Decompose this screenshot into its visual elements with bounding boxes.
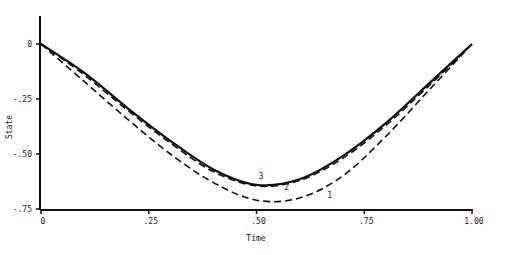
x-tick-label: 1.00	[464, 217, 483, 226]
x-tick-label: .25	[144, 217, 159, 226]
x-tick-label: .75	[359, 217, 374, 226]
y-axis-title: State	[5, 115, 14, 139]
y-ticks: 0-.25-.50-.75	[13, 40, 40, 214]
y-tick-label: -.50	[13, 150, 32, 159]
y-tick-label: -.25	[13, 95, 32, 104]
series-lines	[41, 44, 472, 202]
series-3-line	[41, 44, 472, 185]
y-tick-label: -.75	[13, 205, 32, 214]
x-ticks: 0.25.50.751.00	[41, 210, 484, 226]
y-tick-label: 0	[27, 40, 32, 49]
curve-label-3: 3	[258, 172, 263, 181]
series-2-line	[41, 44, 472, 186]
curve-label-1: 1	[327, 191, 332, 200]
x-tick-label: 0	[41, 217, 46, 226]
curve-label-2: 2	[284, 183, 289, 192]
x-axis-title: Time	[246, 234, 265, 243]
series-1-line	[41, 44, 472, 202]
line-chart: 0-.25-.50-.75 0.25.50.751.00 321 Time St…	[0, 0, 508, 255]
x-tick-label: .50	[251, 217, 266, 226]
